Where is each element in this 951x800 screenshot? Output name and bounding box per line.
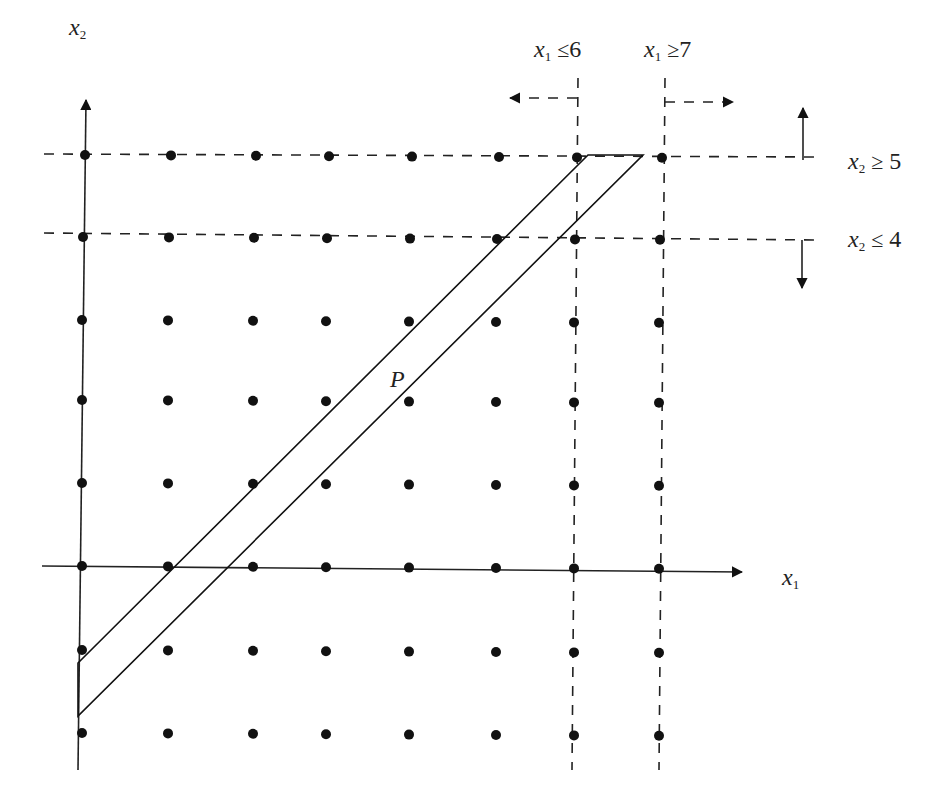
lattice-point xyxy=(404,647,414,657)
lattice-point xyxy=(248,479,258,489)
lattice-point xyxy=(163,645,173,655)
lattice-points xyxy=(77,150,667,741)
constraint-x1-le-6: x1 ≤6 xyxy=(534,36,581,65)
lattice-point xyxy=(77,395,87,405)
lattice-point xyxy=(569,730,579,740)
x2-axis-label: x2 xyxy=(69,14,86,43)
lattice-point xyxy=(654,648,664,658)
lattice-point xyxy=(494,152,504,162)
lattice-point xyxy=(164,232,174,242)
lattice-point xyxy=(321,316,331,326)
lattice-point xyxy=(77,728,87,738)
lattice-point xyxy=(321,562,331,572)
lattice-point xyxy=(654,564,664,574)
lattice-point xyxy=(248,562,258,572)
lattice-point xyxy=(407,152,417,162)
lattice-point xyxy=(654,481,664,491)
lattice-point xyxy=(657,153,667,163)
lattice-point xyxy=(572,152,582,162)
lattice-point xyxy=(166,150,176,160)
lattice-point xyxy=(492,234,502,244)
lattice-point xyxy=(654,318,664,328)
lattice-point xyxy=(655,235,665,245)
lattice-point xyxy=(654,398,664,408)
lattice-point xyxy=(321,646,331,656)
lattice-point xyxy=(491,397,501,407)
lattice-point xyxy=(404,480,414,490)
lattice-point xyxy=(80,150,90,160)
lattice-point xyxy=(569,397,579,407)
lattice-point xyxy=(77,315,87,325)
x1-axis xyxy=(42,566,742,572)
lattice-point xyxy=(77,478,87,488)
lattice-point xyxy=(491,730,501,740)
lattice-point xyxy=(491,317,501,327)
constraint-x1-ge-7: x1 ≥7 xyxy=(644,36,691,65)
lattice-point xyxy=(491,480,501,490)
lattice-point xyxy=(405,234,415,244)
lattice-point xyxy=(324,151,334,161)
lattice-point xyxy=(322,233,332,243)
lattice-point xyxy=(491,647,501,657)
dashed-line-x1-le-6 xyxy=(572,78,578,770)
lattice-point xyxy=(248,316,258,326)
lattice-point xyxy=(77,645,87,655)
lattice-point xyxy=(77,561,87,571)
lattice-point xyxy=(248,396,258,406)
lattice-point xyxy=(404,730,414,740)
lattice-point xyxy=(321,479,331,489)
lattice-diagram xyxy=(0,0,951,800)
lattice-point xyxy=(248,646,258,656)
lattice-point xyxy=(404,563,414,573)
dashed-line-x2-le-4 xyxy=(44,233,815,240)
polyhedron-p xyxy=(78,155,643,716)
dashed-line-x1-ge-7 xyxy=(659,78,665,770)
lattice-point xyxy=(163,728,173,738)
lattice-point xyxy=(321,729,331,739)
constraint-x2-le-4: x2 ≤ 4 xyxy=(848,226,901,255)
x1-axis-label: x1 xyxy=(782,564,799,593)
lattice-point xyxy=(654,731,664,741)
lattice-point xyxy=(569,480,579,490)
lattice-point xyxy=(163,315,173,325)
lattice-point xyxy=(321,396,331,406)
lattice-point xyxy=(570,234,580,244)
lattice-point xyxy=(569,647,579,657)
lattice-point xyxy=(569,563,579,573)
region-p-label: P xyxy=(390,366,405,393)
lattice-point xyxy=(569,317,579,327)
lattice-point xyxy=(163,478,173,488)
lattice-point xyxy=(78,232,88,242)
constraint-x2-ge-5: x2 ≥ 5 xyxy=(848,148,901,177)
lattice-point xyxy=(249,233,259,243)
lattice-point xyxy=(491,563,501,573)
x2-axis xyxy=(78,100,86,770)
lattice-point xyxy=(404,397,414,407)
dashed-line-x2-ge-5 xyxy=(44,154,815,157)
lattice-point xyxy=(163,561,173,571)
lattice-point xyxy=(404,317,414,327)
lattice-point xyxy=(248,729,258,739)
lattice-point xyxy=(251,151,261,161)
lattice-point xyxy=(163,395,173,405)
